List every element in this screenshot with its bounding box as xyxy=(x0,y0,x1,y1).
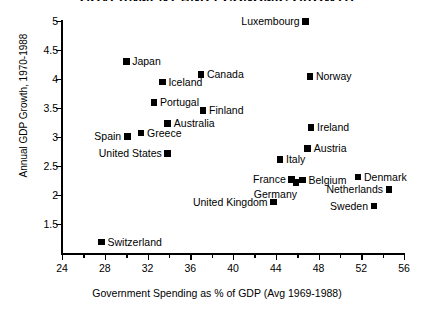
x-tick xyxy=(233,253,234,260)
data-point-marker xyxy=(293,179,300,186)
data-point-marker xyxy=(164,150,171,157)
data-point-label: Austria xyxy=(314,143,347,154)
data-point-label: Japan xyxy=(132,56,161,67)
x-tick-minor xyxy=(254,253,255,258)
data-point-marker xyxy=(371,203,378,210)
x-tick-label: 40 xyxy=(227,262,239,274)
data-point-label: Ireland xyxy=(317,122,349,133)
data-point-label: Canada xyxy=(207,69,244,80)
data-point-label: Norway xyxy=(316,71,352,82)
plot-area: 1.522.533.544.55 242832364044485256 Luxe… xyxy=(62,21,404,253)
data-point-marker xyxy=(277,156,284,163)
data-point-marker xyxy=(138,130,145,137)
x-tick-minor xyxy=(340,253,341,258)
x-tick-label: 44 xyxy=(270,262,282,274)
data-point-marker xyxy=(270,199,277,206)
x-tick-minor xyxy=(83,253,84,258)
data-point-label: United Kingdom xyxy=(193,197,268,208)
x-tick-label: 52 xyxy=(355,262,367,274)
y-tick-label: 1.5 xyxy=(43,219,58,230)
data-point-label: Luxembourg xyxy=(241,16,299,27)
data-point-marker xyxy=(98,239,105,246)
data-point-marker xyxy=(308,124,315,131)
data-point-marker xyxy=(307,73,314,80)
y-tick-label: 4 xyxy=(52,74,58,85)
data-point-label: Netherlands xyxy=(326,184,383,195)
data-point-marker xyxy=(123,58,130,65)
data-point-label: Sweden xyxy=(330,201,368,212)
x-tick-minor xyxy=(169,253,170,258)
x-tick xyxy=(190,253,191,260)
data-point-label: Iceland xyxy=(168,77,202,88)
data-point-marker xyxy=(200,107,207,114)
data-point-marker xyxy=(302,18,309,25)
x-tick-minor xyxy=(126,253,127,258)
data-point-label: Finland xyxy=(209,105,243,116)
data-point-label: Spain xyxy=(94,131,121,142)
data-point-marker xyxy=(386,186,393,193)
data-point-label: Italy xyxy=(286,154,305,165)
chart-title: GOVERNMENT AND ECONOMIC GROWTH xyxy=(0,0,434,1)
y-tick-label: 5 xyxy=(52,16,58,27)
data-point-label: United States xyxy=(99,148,162,159)
data-point-label: Denmark xyxy=(364,172,407,183)
y-tick-label: 3 xyxy=(52,132,58,143)
x-tick-label: 36 xyxy=(184,262,196,274)
x-tick xyxy=(319,253,320,260)
data-point-label: France xyxy=(253,174,286,185)
data-point-marker xyxy=(304,145,311,152)
x-tick xyxy=(62,253,63,260)
x-tick-label: 32 xyxy=(142,262,154,274)
data-point-marker xyxy=(124,133,131,140)
scatter-chart: GOVERNMENT AND ECONOMIC GROWTH Annual GD… xyxy=(0,0,434,312)
x-tick xyxy=(276,253,277,260)
data-point-label: Portugal xyxy=(160,97,199,108)
data-point-marker xyxy=(159,79,166,86)
y-tick-label: 3.5 xyxy=(43,103,58,114)
data-point-marker xyxy=(299,177,306,184)
data-point-marker xyxy=(355,174,362,181)
x-tick-minor xyxy=(212,253,213,258)
x-tick-minor xyxy=(297,253,298,258)
y-axis-title: Annual GDP Growth, 1970-1988 xyxy=(18,0,29,216)
data-point-marker xyxy=(151,99,158,106)
y-tick-label: 2.5 xyxy=(43,161,58,172)
x-tick-label: 56 xyxy=(398,262,410,274)
y-tick-label: 4.5 xyxy=(43,45,58,56)
x-tick xyxy=(404,253,405,260)
x-tick-label: 28 xyxy=(99,262,111,274)
data-point-label: Greece xyxy=(147,128,181,139)
x-axis-title: Government Spending as % of GDP (Avg 196… xyxy=(0,287,434,299)
y-tick-label: 2 xyxy=(52,190,58,201)
x-tick-label: 24 xyxy=(56,262,68,274)
data-point-label: Switzerland xyxy=(108,237,162,248)
x-tick xyxy=(105,253,106,260)
x-tick xyxy=(148,253,149,260)
x-tick-label: 48 xyxy=(313,262,325,274)
x-tick xyxy=(361,253,362,260)
x-tick-minor xyxy=(383,253,384,258)
